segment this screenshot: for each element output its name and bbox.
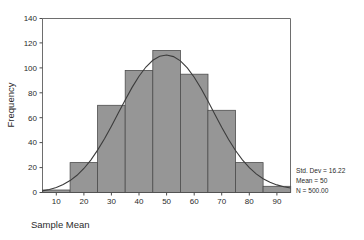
y-tick-label-120: 120 xyxy=(24,39,38,48)
x-tick-label-40: 40 xyxy=(135,197,144,206)
y-tick-label-40: 40 xyxy=(28,138,37,147)
x-tick-label-10: 10 xyxy=(52,197,61,206)
x-tick-label-30: 30 xyxy=(107,197,116,206)
statistics-box: Std. Dev = 16.22 Mean = 50 N = 500.00 xyxy=(296,167,346,194)
n-label: N = 500.00 xyxy=(296,187,329,194)
y-axis-title: Frequency xyxy=(5,82,16,127)
histogram-chart: 0 20 40 60 80 100 120 140 xyxy=(0,0,364,240)
x-tick-label-70: 70 xyxy=(217,197,226,206)
y-tick-label-80: 80 xyxy=(28,89,37,98)
x-axis-tick-labels: 10 20 30 40 50 60 70 80 90 xyxy=(52,197,282,206)
histogram-bar xyxy=(208,110,236,192)
histogram-bar xyxy=(180,74,208,192)
y-tick-label-0: 0 xyxy=(33,188,38,197)
y-tick-label-20: 20 xyxy=(28,163,37,172)
y-tick-label-60: 60 xyxy=(28,114,37,123)
x-tick-label-50: 50 xyxy=(162,197,171,206)
y-tick-label-100: 100 xyxy=(24,64,38,73)
y-axis-tick-labels: 0 20 40 60 80 100 120 140 xyxy=(24,14,38,197)
x-tick-label-60: 60 xyxy=(190,197,199,206)
mean-label: Mean = 50 xyxy=(296,177,328,184)
histogram-bar xyxy=(125,70,153,192)
histogram-bar xyxy=(153,51,181,193)
x-tick-label-20: 20 xyxy=(79,197,88,206)
histogram-bar xyxy=(98,105,126,192)
x-tick-label-90: 90 xyxy=(272,197,281,206)
chart-canvas: 0 20 40 60 80 100 120 140 xyxy=(0,0,364,240)
y-tick-label-140: 140 xyxy=(24,14,38,23)
x-axis-title: Sample Mean xyxy=(31,219,90,230)
x-tick-label-80: 80 xyxy=(245,197,254,206)
std-dev-label: Std. Dev = 16.22 xyxy=(296,167,346,174)
